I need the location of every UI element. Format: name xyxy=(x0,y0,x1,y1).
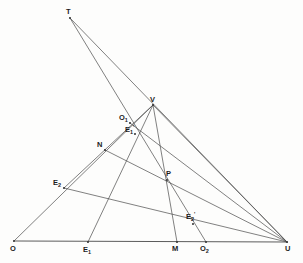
label-base-U: U xyxy=(285,244,291,253)
segment-baseline-O-U xyxy=(14,241,287,242)
point-label-E1p: E1' xyxy=(125,126,135,134)
vertex-E1 xyxy=(87,241,89,243)
segment-O1-to-U xyxy=(130,123,287,242)
vertex-T xyxy=(69,17,71,19)
vertex-U xyxy=(286,241,288,243)
geometry-figure: TVO1E1'NE2PE2'OE1MO2U xyxy=(0,0,303,263)
vertex-O1 xyxy=(129,122,131,124)
label-base-O: O xyxy=(10,244,16,253)
point-label-U: U xyxy=(285,245,291,253)
vertex-E2 xyxy=(63,187,65,189)
label-base-T: T xyxy=(66,7,71,16)
point-label-M: M xyxy=(172,245,178,253)
point-label-T: T xyxy=(66,8,71,16)
label-base-M: M xyxy=(172,244,178,253)
label-subscript-E1: 1 xyxy=(88,249,91,255)
label-subscript-O1: 1 xyxy=(125,117,128,123)
label-subscript-O2: 2 xyxy=(206,248,209,254)
point-label-V: V xyxy=(150,96,155,104)
segments-group xyxy=(14,18,287,242)
vertex-N xyxy=(104,149,106,151)
point-label-E2p: E2' xyxy=(186,213,196,221)
vertex-M xyxy=(176,241,178,243)
point-label-O2: O2 xyxy=(200,245,209,253)
point-label-E1: E1 xyxy=(83,246,91,254)
vertex-O2 xyxy=(205,241,207,243)
vertex-O xyxy=(13,240,15,242)
label-base-P: P xyxy=(166,169,171,178)
segment-E2-to-V xyxy=(64,105,153,188)
vertex-V xyxy=(152,104,154,106)
vertex-P xyxy=(166,179,168,181)
label-subscript-E2: 2 xyxy=(58,182,61,188)
segment-T-to-O2 xyxy=(70,18,206,242)
point-label-N: N xyxy=(97,141,103,149)
segment-V-to-E1 xyxy=(88,105,153,242)
label-prime-E1p: ' xyxy=(133,124,134,130)
label-base-N: N xyxy=(97,140,103,149)
segment-N-to-U-through-P xyxy=(105,150,287,242)
point-label-O1: O1 xyxy=(119,114,128,122)
point-label-O: O xyxy=(10,245,16,253)
label-prime-E2p: ' xyxy=(194,211,195,217)
label-base-V: V xyxy=(150,95,155,104)
point-label-E2: E2 xyxy=(53,179,61,187)
geometry-canvas xyxy=(0,0,303,263)
point-label-P: P xyxy=(166,170,171,178)
vertex-E2p xyxy=(192,223,194,225)
